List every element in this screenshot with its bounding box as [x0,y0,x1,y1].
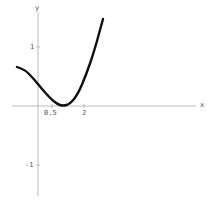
x-tick-label: 0.5 [44,110,57,117]
x-axis-label: x [200,102,204,109]
y-tick-label: -1 [25,162,33,169]
plot-area [0,0,218,211]
curve-line [17,19,103,106]
x-tick-label: 2 [82,110,86,117]
y-tick-label: 1 [30,44,34,51]
y-axis-label: y [35,5,39,12]
